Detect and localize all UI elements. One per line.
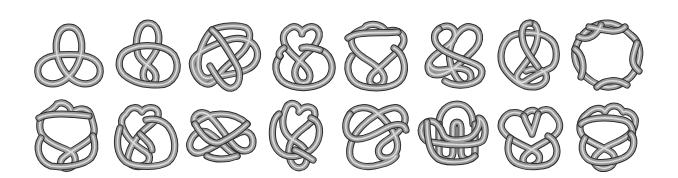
knot-6_2-icon — [415, 15, 495, 95]
knot-7_7-icon — [411, 94, 491, 174]
knot-7_2-icon — [27, 94, 107, 174]
knot-7_4: 7_4 — [181, 94, 261, 174]
knot-7_3: 7_3 — [106, 94, 186, 174]
figure-eight-knot-icon — [108, 15, 188, 95]
knot-6_3: 6_3 — [490, 15, 570, 95]
knot-6_3-icon — [490, 15, 570, 95]
knot-6_1-stevedore: 6_1 — [336, 16, 416, 96]
knot-7_5: 7_5 — [257, 94, 337, 174]
knot-7_5-icon — [257, 94, 337, 174]
septafoil-knot-icon — [567, 15, 647, 95]
trefoil-knot-icon — [29, 17, 109, 97]
knot-6_2: 6_2 — [415, 15, 495, 95]
cinquefoil-knot-icon — [184, 16, 264, 96]
knot-table: 3_1 4_1 5_1 5_2 6_1 6_2 6_3 — [0, 0, 678, 178]
knot-7_6-icon — [334, 94, 414, 174]
knot-8_1: 8_1 — [490, 94, 570, 174]
knot-7_2: 7_2 — [27, 94, 107, 174]
knot-7_3-icon — [106, 94, 186, 174]
knot-5_2: 5_2 — [262, 16, 342, 96]
knot-7_4-icon — [181, 94, 261, 174]
knot-8_2-icon — [565, 94, 645, 174]
knot-3_1-trefoil: 3_1 — [29, 17, 109, 97]
knot-5_2-icon — [262, 16, 342, 96]
knot-8_2: 8_2 — [565, 94, 645, 174]
knot-5_1-cinquefoil: 5_1 — [184, 16, 264, 96]
knot-7_6: 7_6 — [334, 94, 414, 174]
knot-7_1-septafoil: 7_1 — [567, 15, 647, 95]
knot-8_1-icon — [490, 94, 570, 174]
knot-7_7: 7_7 — [411, 94, 491, 174]
stevedore-knot-icon — [336, 16, 416, 96]
knot-4_1-figure-eight: 4_1 — [108, 15, 188, 95]
